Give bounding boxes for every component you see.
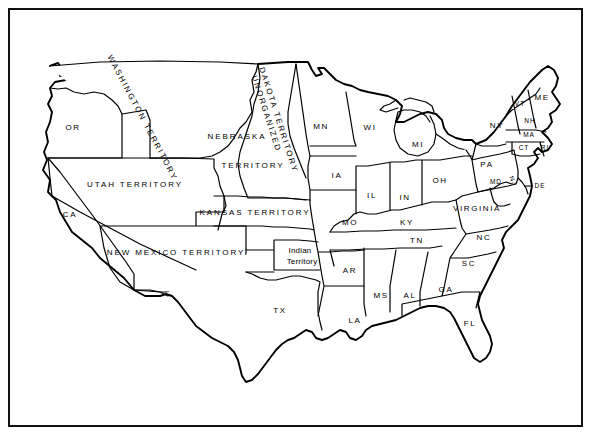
northern-border-and-great-lakes	[258, 62, 476, 144]
kansas-territory-boundary	[214, 196, 314, 230]
map-geometry	[0, 0, 591, 435]
historical-us-map-figure: WASHINGTON TERRITORY UNORGANIZED DAKOTA …	[0, 0, 591, 435]
